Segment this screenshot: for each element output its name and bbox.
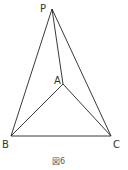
edge-PB bbox=[11, 9, 52, 136]
label-B: B bbox=[2, 140, 9, 150]
label-C: C bbox=[113, 140, 120, 150]
edge-AC bbox=[63, 84, 111, 136]
edge-PC bbox=[52, 9, 111, 136]
tetrahedron-diagram bbox=[0, 0, 128, 170]
edge-AB bbox=[11, 84, 63, 136]
label-P: P bbox=[40, 4, 46, 14]
label-A: A bbox=[54, 76, 61, 86]
figure-caption: 図6 bbox=[52, 158, 65, 166]
